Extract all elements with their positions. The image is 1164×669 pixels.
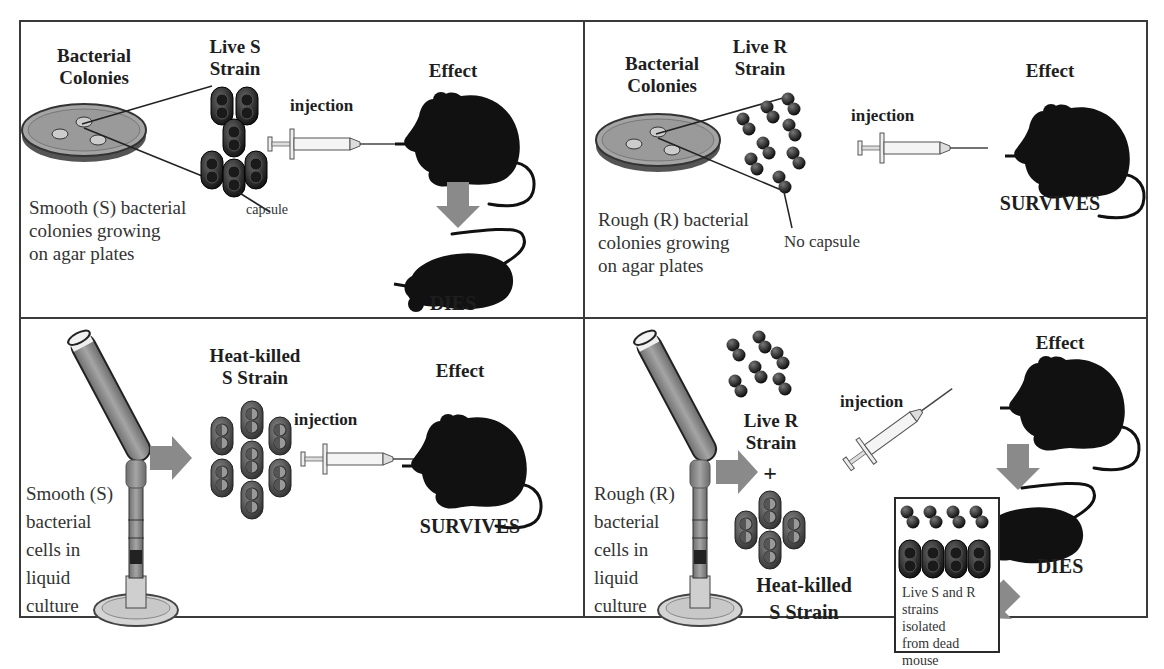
down-arrow-icon [996, 444, 1040, 490]
desc-line: culture [594, 592, 675, 620]
label-line: Live R [736, 410, 806, 432]
description-text: Rough (R) bacterial cells in liquid cult… [594, 480, 675, 620]
label-line: Heat-killed [744, 572, 864, 599]
iso-line: from dead [902, 635, 976, 652]
iso-line: isolated [902, 618, 976, 635]
iso-line: mouse [902, 652, 976, 669]
injection-label: injection [840, 392, 903, 412]
desc-line: bacterial [594, 508, 675, 536]
right-arrow-icon [716, 450, 758, 494]
effect-label: Effect [1000, 332, 1120, 354]
isolated-strains-text: Live S and R strains isolated from dead … [902, 584, 976, 669]
outcome-dies: DIES [1000, 555, 1120, 577]
live-r-cells-icon [727, 331, 792, 398]
label-line: S Strain [744, 599, 864, 626]
iso-line: strains [902, 601, 976, 618]
label-line: Strain [736, 432, 806, 454]
isolated-strains-box: Live S and R strains isolated from dead … [894, 497, 1000, 653]
desc-line: Rough (R) [594, 480, 675, 508]
isolated-cells-icon [896, 499, 1002, 589]
heat-killed-s-strain-label: Heat-killed S Strain [744, 572, 864, 626]
desc-line: liquid [594, 564, 675, 592]
heat-killed-cells-icon [735, 491, 805, 569]
plus-sign: + [758, 462, 782, 484]
desc-line: cells in [594, 536, 675, 564]
iso-line: Live S and R [902, 584, 976, 601]
test-tube-icon [632, 328, 720, 466]
live-r-strain-label: Live R Strain [736, 410, 806, 454]
